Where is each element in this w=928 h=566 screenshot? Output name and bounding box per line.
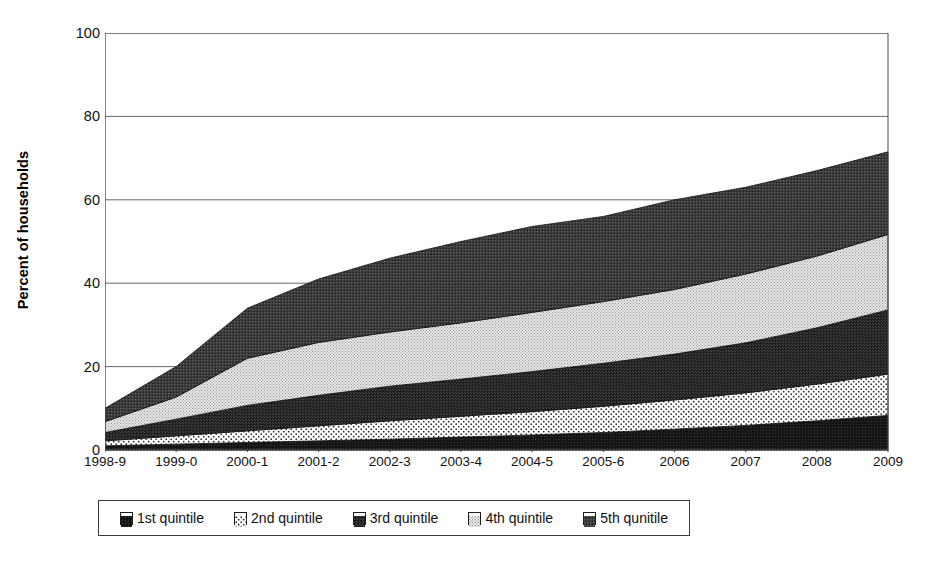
chart-page: Percent of households 020406080100 1998-…	[0, 0, 928, 566]
legend-label: 3rd quintile	[370, 511, 439, 525]
y-tick-label: 60	[58, 193, 100, 208]
x-tick-label: 2005-6	[582, 455, 624, 469]
legend-item[interactable]: 2nd quintile	[234, 511, 323, 525]
y-axis-tick-labels: 020406080100	[44, 0, 100, 566]
legend-swatch-icon	[353, 512, 366, 525]
x-tick-label: 2008	[802, 455, 832, 469]
y-tick-label: 40	[58, 276, 100, 291]
legend-swatch-icon	[583, 512, 596, 525]
legend-swatch-icon	[234, 512, 247, 525]
legend-swatch-icon	[468, 512, 481, 525]
y-tick-label: 80	[58, 109, 100, 124]
legend-item[interactable]: 1st quintile	[120, 511, 204, 525]
x-tick-label: 2006	[659, 455, 689, 469]
x-tick-label: 2004-5	[511, 455, 553, 469]
chart-legend: 1st quintile2nd quintile3rd quintile4th …	[98, 500, 690, 536]
legend-swatch-icon	[120, 512, 133, 525]
y-axis-title-text: Percent of households	[15, 151, 31, 309]
x-tick-label: 2003-4	[440, 455, 482, 469]
legend-label: 4th quintile	[485, 511, 553, 525]
plot-area	[105, 33, 888, 450]
x-tick-label: 2001-2	[298, 455, 340, 469]
y-tick-label: 100	[58, 26, 100, 41]
legend-label: 1st quintile	[137, 511, 204, 525]
legend-label: 5th qunitile	[600, 511, 668, 525]
x-tick-label: 2009	[873, 455, 903, 469]
legend-item[interactable]: 3rd quintile	[353, 511, 439, 525]
legend-item[interactable]: 4th quintile	[468, 511, 553, 525]
x-tick-label: 2007	[731, 455, 761, 469]
x-tick-label: 2000-1	[226, 455, 268, 469]
y-tick-label: 20	[58, 360, 100, 375]
x-tick-label: 2002-3	[369, 455, 411, 469]
legend-item[interactable]: 5th qunitile	[583, 511, 668, 525]
x-tick-label: 1998-9	[84, 455, 126, 469]
y-axis-title: Percent of households	[0, 0, 46, 460]
x-tick-label: 1999-0	[155, 455, 197, 469]
x-axis-tick-labels: 1998-91999-02000-12001-22002-32003-42004…	[0, 455, 928, 479]
legend-label: 2nd quintile	[251, 511, 323, 525]
